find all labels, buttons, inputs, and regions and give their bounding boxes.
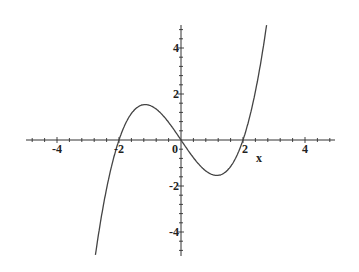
x-axis-title: x — [256, 151, 262, 165]
y-tick-label-2: 2 — [173, 87, 179, 101]
y-tick-label-neg4: -4 — [169, 225, 179, 239]
function-plot: -4 -2 0 2 4 x 4 2 -2 -4 — [0, 0, 359, 272]
x-tick-label-neg2: -2 — [114, 142, 124, 156]
x-tick-label-4: 4 — [302, 142, 308, 156]
x-tick-label-neg4: -4 — [52, 142, 62, 156]
x-tick-label-2: 2 — [242, 142, 248, 156]
y-tick-label-neg2: -2 — [169, 179, 179, 193]
origin-label: 0 — [172, 142, 178, 156]
y-tick-label-4: 4 — [173, 41, 179, 55]
